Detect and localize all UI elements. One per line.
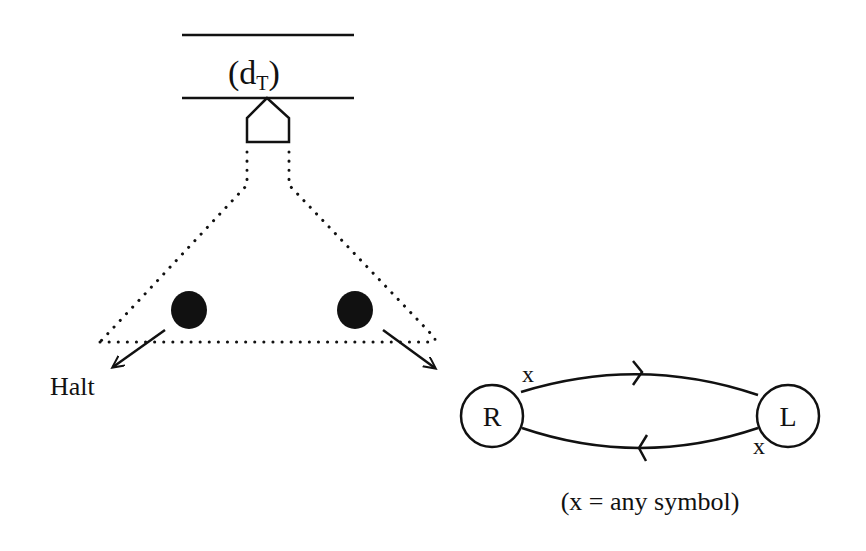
state-R-label: R [483,401,502,432]
machine-arrow [383,330,435,368]
head-zoom-cone [100,152,435,342]
tape: (dT) [182,35,354,98]
symbol-note: (x = any symbol) [561,487,740,516]
halt-label: Halt [50,372,96,401]
state-machine: R L x x (x = any symbol) [461,361,819,516]
halt-arrow [113,330,165,367]
state-L-label: L [779,401,796,432]
left-state-dot [171,291,207,329]
transition-L-to-R-symbol: x [753,433,765,459]
transition-R-to-L-symbol: x [522,361,534,387]
tape-head-icon [247,98,289,142]
turing-machine-diagram: (dT) Halt R L x x (x = any symbol) [0,0,866,551]
right-state-dot [337,291,373,329]
tape-label: (dT) [228,54,280,94]
